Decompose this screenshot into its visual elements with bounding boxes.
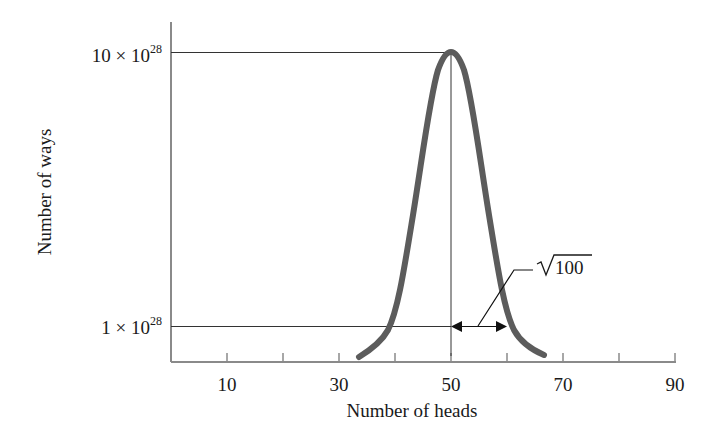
axes	[171, 22, 676, 362]
x-tick-label-10: 10	[218, 374, 237, 395]
y-tick-label-bottom: 1 × 1028	[101, 314, 162, 338]
x-axis-title: Number of heads	[347, 400, 478, 421]
x-tick-label-50: 50	[442, 374, 461, 395]
x-tick-label-30: 30	[330, 374, 349, 395]
width-arrow	[451, 270, 533, 332]
y-bottom-exp: 28	[150, 314, 162, 328]
width-label: 100	[537, 255, 592, 278]
y-top-exp: 28	[150, 42, 162, 56]
arrowhead-left-icon	[451, 321, 462, 332]
x-tick-labels: 10 30 50 70 90	[218, 374, 685, 395]
width-label-value: 100	[555, 257, 584, 278]
y-axis-title: Number of ways	[34, 129, 55, 256]
arrowhead-right-icon	[496, 321, 507, 332]
y-top-base: 10 × 10	[92, 45, 150, 66]
guide-lines	[171, 52, 451, 356]
x-tick-label-90: 90	[666, 374, 685, 395]
y-tick-label-top: 10 × 1028	[92, 42, 162, 66]
x-tick-label-70: 70	[554, 374, 573, 395]
y-bottom-base: 1 × 10	[101, 317, 150, 338]
chart: 10 30 50 70 90 Number of heads Number of…	[0, 0, 723, 435]
